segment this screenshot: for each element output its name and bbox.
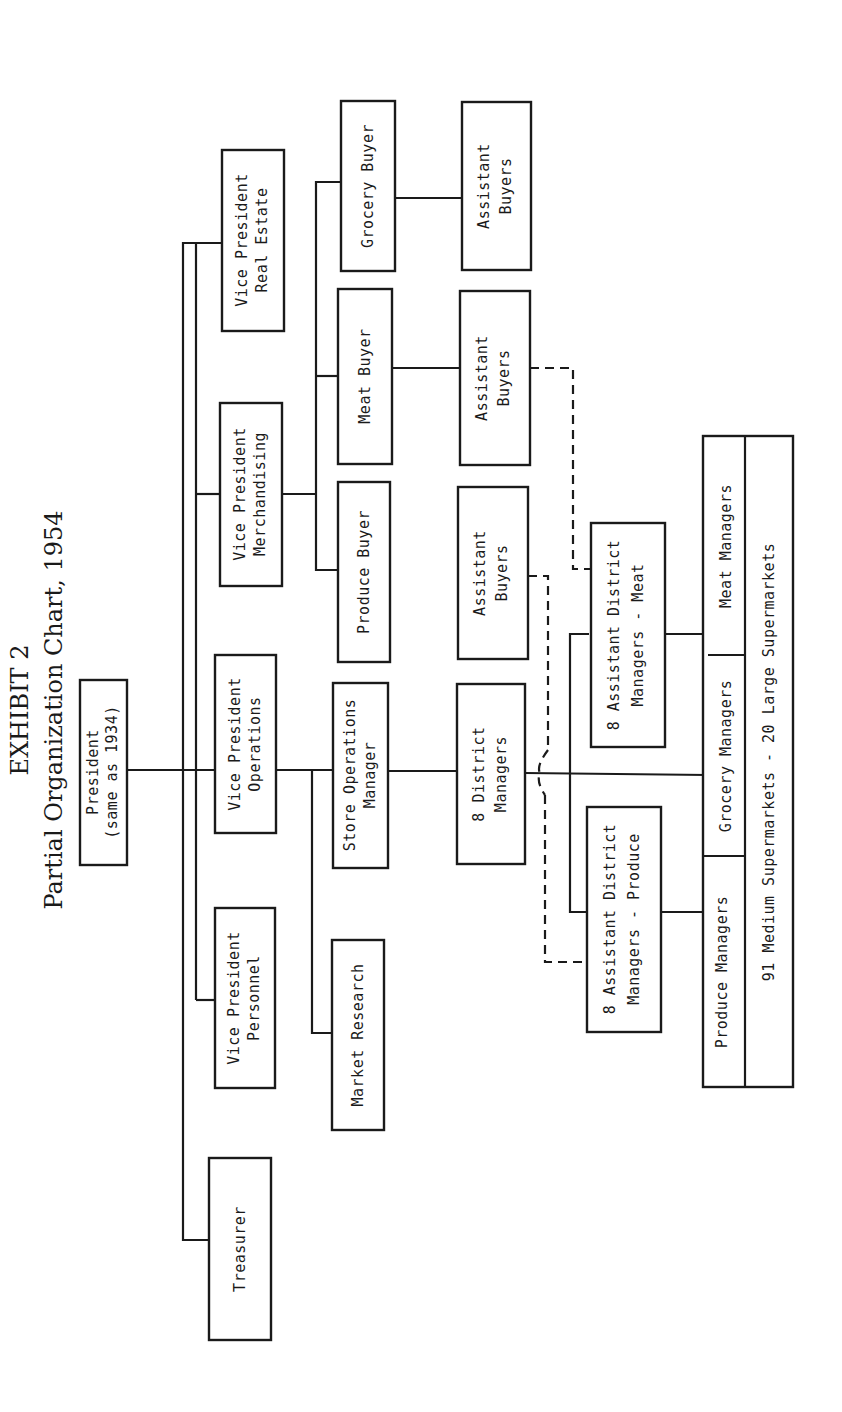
node-district-managers: 8 District Managers: [457, 684, 525, 864]
svg-text:Buyers: Buyers: [493, 544, 511, 601]
node-vp-operations: Vice President Operations: [215, 655, 276, 833]
node-supermarkets: 91 Medium Supermarkets - 20 Large Superm…: [760, 543, 778, 981]
svg-text:Vice President: Vice President: [233, 173, 251, 306]
node-vp-merchandising: Vice President Merchandising: [220, 403, 282, 586]
node-assistant-buyers-grocery: Assistant Buyers: [462, 102, 531, 270]
node-meat-managers: Meat Managers: [717, 484, 735, 608]
dashed-connectors: [528, 368, 591, 962]
node-vp-real-estate: Vice President Real Estate: [222, 150, 284, 331]
org-chart: EXHIBIT 2 Partial Organization Chart, 19…: [0, 0, 842, 1412]
node-grocery-managers: Grocery Managers: [717, 680, 735, 833]
node-store-operations-manager: Store Operations Manager: [333, 683, 388, 868]
svg-text:President: President: [84, 729, 102, 815]
exhibit-label: EXHIBIT 2: [6, 644, 34, 775]
svg-text:(same as 1934): (same as 1934): [103, 705, 121, 838]
svg-text:Buyers: Buyers: [495, 349, 513, 406]
node-produce-managers: Produce Managers: [713, 896, 731, 1049]
svg-text:Merchandising: Merchandising: [251, 432, 269, 556]
svg-text:8 Assistant District: 8 Assistant District: [605, 540, 623, 731]
svg-text:Vice President: Vice President: [225, 931, 243, 1064]
node-asst-district-managers-produce: 8 Assistant District Managers - Produce: [587, 807, 661, 1032]
node-produce-buyer: Produce Buyer: [338, 482, 390, 662]
svg-text:Manager: Manager: [361, 742, 379, 809]
svg-text:91 Medium Supermarkets - 20 La: 91 Medium Supermarkets - 20 Large Superm…: [760, 543, 778, 981]
svg-text:Vice President: Vice President: [231, 427, 249, 560]
svg-text:Meat Managers: Meat Managers: [717, 484, 735, 608]
svg-text:Managers - Meat: Managers - Meat: [629, 564, 647, 707]
svg-text:Managers: Managers: [492, 736, 510, 812]
svg-text:Assistant: Assistant: [471, 530, 489, 616]
svg-text:Produce Managers: Produce Managers: [713, 896, 731, 1049]
svg-text:Vice President: Vice President: [226, 677, 244, 810]
svg-text:8 District: 8 District: [470, 726, 488, 821]
svg-text:Grocery Buyer: Grocery Buyer: [359, 124, 377, 248]
node-assistant-buyers-produce: Assistant Buyers: [458, 487, 528, 659]
node-president: President (same as 1934): [80, 680, 127, 865]
chart-title: Partial Organization Chart, 1954: [40, 510, 68, 909]
node-grocery-buyer: Grocery Buyer: [341, 101, 395, 271]
svg-text:Real Estate: Real Estate: [253, 188, 271, 293]
svg-text:Assistant: Assistant: [473, 335, 491, 421]
svg-text:Operations: Operations: [246, 696, 264, 791]
svg-text:Managers - Produce: Managers - Produce: [625, 833, 643, 1005]
svg-text:Grocery Managers: Grocery Managers: [717, 680, 735, 833]
node-assistant-buyers-meat: Assistant Buyers: [460, 291, 530, 465]
svg-text:8 Assistant District: 8 Assistant District: [601, 824, 619, 1015]
node-treasurer: Treasurer: [209, 1158, 271, 1340]
svg-text:Meat Buyer: Meat Buyer: [356, 328, 374, 423]
node-meat-buyer: Meat Buyer: [338, 289, 392, 464]
node-asst-district-managers-meat: 8 Assistant District Managers - Meat: [591, 523, 665, 747]
svg-text:Produce Buyer: Produce Buyer: [355, 510, 373, 634]
svg-text:Buyers: Buyers: [497, 157, 515, 214]
node-vp-personnel: Vice President Personnel: [215, 908, 275, 1088]
svg-text:Personnel: Personnel: [245, 955, 263, 1041]
svg-text:Store Operations: Store Operations: [341, 699, 359, 852]
svg-text:Treasurer: Treasurer: [231, 1206, 249, 1292]
svg-text:Market Research: Market Research: [349, 964, 367, 1107]
node-market-research: Market Research: [332, 940, 384, 1130]
svg-text:Assistant: Assistant: [475, 143, 493, 229]
